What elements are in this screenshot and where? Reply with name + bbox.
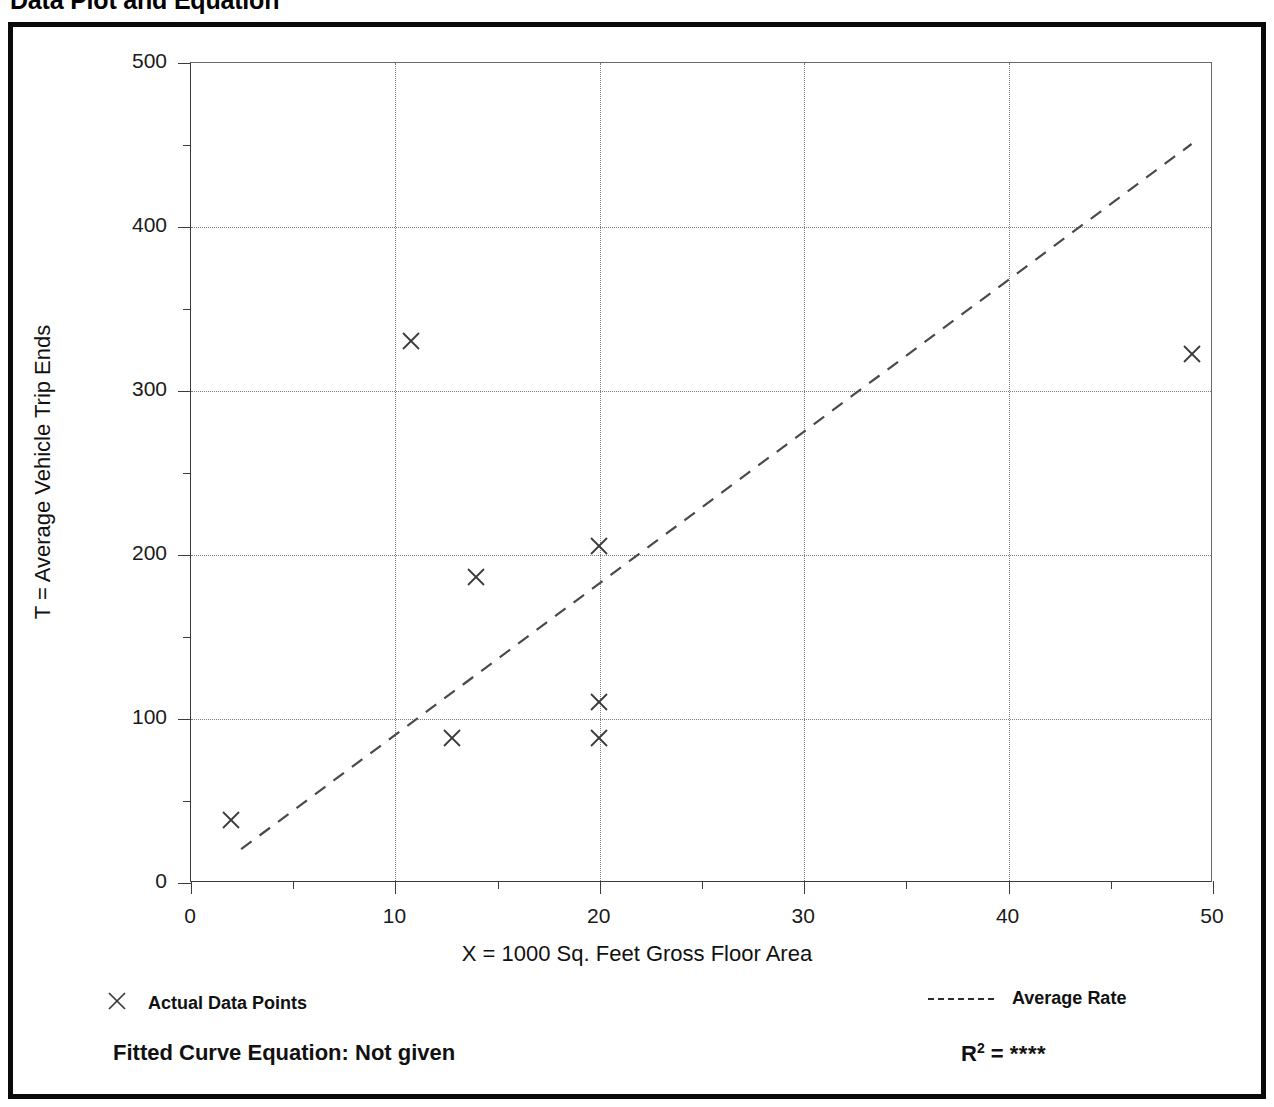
y-axis-tick-major xyxy=(178,883,191,884)
legend-item-average-rate: Average Rate xyxy=(928,988,1126,1009)
x-axis-tick-major xyxy=(804,881,805,894)
r-squared-exponent: 2 xyxy=(977,1040,985,1056)
x-axis-tick-major xyxy=(1009,881,1010,894)
x-axis-tick-major xyxy=(395,881,396,894)
y-axis-tick-label: 0 xyxy=(97,869,167,893)
gridline-vertical xyxy=(600,63,601,881)
chart-legend: Actual Data Points Average Rate xyxy=(0,988,1274,1030)
y-axis-title: T = Average Vehicle Trip Ends xyxy=(30,325,56,620)
r-squared-equals: = xyxy=(985,1041,1010,1066)
x-axis-tick-label: 40 xyxy=(978,904,1038,928)
y-axis-tick-label: 500 xyxy=(97,49,167,73)
gridline-vertical xyxy=(804,63,805,881)
y-axis-tick-major xyxy=(178,719,191,720)
r-squared-label: R xyxy=(961,1041,977,1066)
y-axis-tick-major xyxy=(178,227,191,228)
gridline-vertical xyxy=(1009,63,1010,881)
y-axis-tick-major xyxy=(178,63,191,64)
y-axis-tick-minor xyxy=(183,309,191,310)
chart-region: 0100200300400500 01020304050 T = Average… xyxy=(0,0,1274,1107)
y-axis-tick-label: 200 xyxy=(97,541,167,565)
plot-area xyxy=(190,62,1212,882)
r-squared-annotation: R2 = **** xyxy=(961,1040,1046,1067)
x-axis-tick-label: 50 xyxy=(1182,904,1242,928)
y-axis-tick-label: 300 xyxy=(97,377,167,401)
y-axis-tick-label: 100 xyxy=(97,705,167,729)
y-axis-tick-minor xyxy=(183,637,191,638)
gridline-horizontal xyxy=(191,555,1211,556)
gridline-horizontal xyxy=(191,227,1211,228)
x-axis-tick-major xyxy=(600,881,601,894)
y-axis-tick-minor xyxy=(183,801,191,802)
y-axis-tick-minor xyxy=(183,473,191,474)
y-axis-tick-minor xyxy=(183,145,191,146)
r-squared-value: **** xyxy=(1010,1041,1046,1066)
legend-label-actual-data-points: Actual Data Points xyxy=(148,993,307,1014)
dashed-line-icon xyxy=(928,998,994,1000)
x-axis-tick-label: 0 xyxy=(160,904,220,928)
x-axis-title: X = 1000 Sq. Feet Gross Floor Area xyxy=(0,941,1274,967)
y-axis-tick-major xyxy=(178,555,191,556)
x-marker-icon xyxy=(104,988,130,1018)
x-axis-tick-label: 30 xyxy=(773,904,833,928)
x-axis-tick-minor xyxy=(906,881,907,889)
x-axis-tick-minor xyxy=(1111,881,1112,889)
x-axis-tick-label: 20 xyxy=(569,904,629,928)
x-axis-tick-minor xyxy=(702,881,703,889)
x-axis-tick-major xyxy=(191,881,192,894)
x-axis-tick-major xyxy=(1213,881,1214,894)
x-axis-tick-minor xyxy=(293,881,294,889)
x-axis-tick-label: 10 xyxy=(364,904,424,928)
y-axis-tick-major xyxy=(178,391,191,392)
legend-item-actual-data-points: Actual Data Points xyxy=(104,988,307,1018)
y-axis-tick-label: 400 xyxy=(97,213,167,237)
legend-label-average-rate: Average Rate xyxy=(1012,988,1126,1009)
gridline-horizontal xyxy=(191,391,1211,392)
gridline-horizontal xyxy=(191,719,1211,720)
gridline-vertical xyxy=(395,63,396,881)
fitted-curve-equation: Fitted Curve Equation: Not given xyxy=(113,1040,455,1066)
equation-row: Fitted Curve Equation: Not given R2 = **… xyxy=(0,1040,1274,1080)
x-axis-tick-minor xyxy=(498,881,499,889)
